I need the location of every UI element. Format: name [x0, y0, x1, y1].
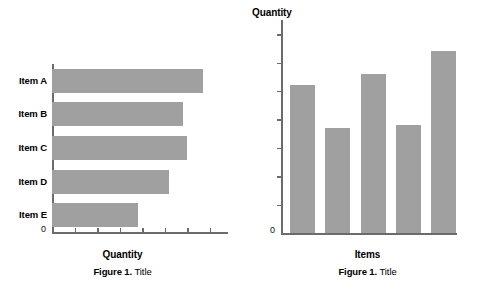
right-caption-label: Figure 1. — [338, 266, 377, 277]
axis-tick — [277, 63, 282, 64]
bar — [52, 203, 138, 227]
right-chart-caption: Figure 1. Title — [245, 266, 490, 277]
figure-right: Quantity 0 Items Figure 1. Title — [245, 0, 490, 290]
axis-tick — [187, 228, 188, 233]
axis-tick — [75, 228, 76, 233]
left-caption-label: Figure 1. — [93, 266, 132, 277]
axis-tick — [277, 205, 282, 206]
axis-tick — [277, 176, 282, 177]
axis-tick — [97, 228, 98, 233]
right-caption-title: Title — [379, 266, 396, 277]
figure-left: Item AItem BItem CItem DItem E 0 Quantit… — [0, 0, 245, 290]
axis-tick — [165, 228, 166, 233]
right-chart-plot-area: Quantity 0 — [245, 0, 490, 290]
category-label: Item C — [19, 142, 47, 153]
right-chart-y-axis-line — [281, 20, 283, 234]
left-chart-plot-area: Item AItem BItem CItem DItem E 0 — [0, 0, 245, 290]
bar — [361, 74, 386, 233]
left-chart-caption: Figure 1. Title — [0, 266, 245, 277]
category-label: Item A — [19, 75, 47, 86]
category-label: Item D — [19, 176, 47, 187]
bar — [52, 136, 187, 160]
left-chart-origin-label: 0 — [41, 224, 46, 234]
right-chart-origin-label: 0 — [270, 225, 275, 235]
category-label: Item B — [19, 108, 47, 119]
axis-tick — [120, 228, 121, 233]
axis-tick — [277, 119, 282, 120]
axis-tick — [210, 228, 211, 233]
bar — [52, 170, 169, 194]
category-label: Item E — [19, 209, 47, 220]
axis-tick — [277, 34, 282, 35]
bar — [325, 128, 350, 233]
right-chart-x-axis-line — [281, 233, 457, 235]
right-chart-x-axis-title: Items — [245, 249, 490, 260]
right-chart-y-axis-title: Quantity — [252, 7, 292, 18]
left-caption-title: Title — [134, 266, 151, 277]
bar — [396, 125, 421, 233]
bar — [431, 51, 456, 233]
left-chart-x-axis-title: Quantity — [0, 249, 245, 260]
bar — [52, 69, 203, 93]
bar — [52, 102, 183, 126]
figure-page: Item AItem BItem CItem DItem E 0 Quantit… — [0, 0, 490, 290]
axis-tick — [277, 91, 282, 92]
bar — [290, 85, 315, 233]
left-chart-x-axis-line — [52, 232, 228, 234]
axis-tick — [142, 228, 143, 233]
axis-tick — [277, 148, 282, 149]
